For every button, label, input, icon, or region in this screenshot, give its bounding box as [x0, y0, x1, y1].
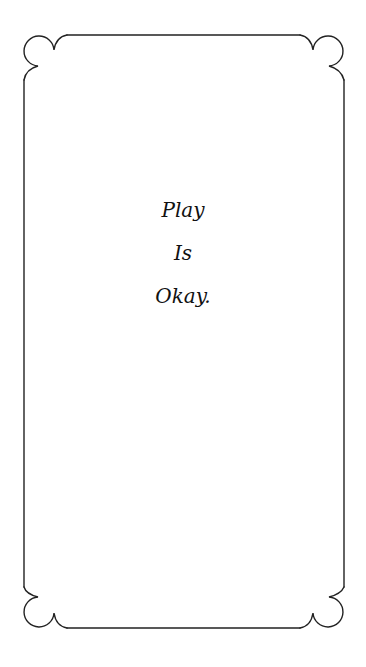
message-line-2: Is [0, 235, 366, 278]
message-line-3: Okay. [0, 278, 366, 321]
ornamental-border-frame [0, 0, 366, 667]
message-line-1: Play [0, 192, 366, 235]
card-message: Play Is Okay. [0, 192, 366, 321]
